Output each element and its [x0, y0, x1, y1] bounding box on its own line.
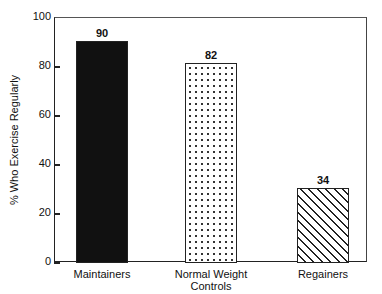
- y-axis-label: % Who Exercise Regularly: [8, 75, 20, 205]
- y-tick-label: 20: [11, 206, 51, 218]
- y-tick-label: 80: [11, 59, 51, 71]
- x-label-line: Regainers: [268, 268, 378, 280]
- y-tick-60: [54, 115, 60, 117]
- value-label-maintainers: 90: [72, 27, 132, 39]
- y-tick-80: [54, 66, 60, 68]
- value-label-regainers: 34: [293, 174, 353, 186]
- x-label-line-2: Controls: [156, 280, 266, 292]
- bar-maintainers: [76, 41, 128, 263]
- bar-normal-weight-controls: [185, 63, 237, 263]
- x-label-regainers: Regainers: [268, 268, 378, 280]
- value-label-normal-weight: 82: [181, 49, 241, 61]
- y-tick-label: 0: [11, 255, 51, 267]
- bar-regainers: [297, 188, 349, 263]
- y-tick-0: [54, 262, 60, 264]
- x-label-line: Maintainers: [47, 268, 157, 280]
- x-label-normal-weight-controls: Normal Weight Controls: [156, 268, 266, 292]
- x-label-maintainers: Maintainers: [47, 268, 157, 280]
- y-tick-20: [54, 213, 60, 215]
- x-label-line: Normal Weight: [156, 268, 266, 280]
- y-tick-label: 100: [11, 10, 51, 22]
- y-tick-40: [54, 164, 60, 166]
